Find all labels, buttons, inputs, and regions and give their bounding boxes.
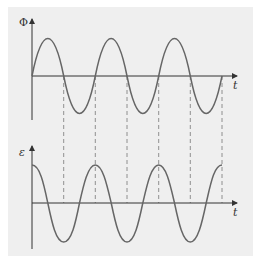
t-label-top: t [233, 79, 238, 92]
t-label-bottom: t [233, 206, 238, 219]
flux-emf-diagram: Φ t ε t [0, 0, 263, 269]
phi-label: Φ [19, 16, 28, 29]
emf-label: ε [19, 146, 25, 159]
dashed-guides [64, 76, 222, 203]
